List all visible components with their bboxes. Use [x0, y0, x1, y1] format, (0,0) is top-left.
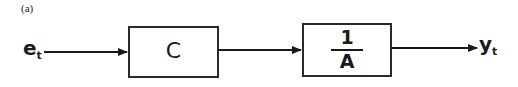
output-subscript: t	[492, 45, 497, 58]
controller-label: C	[130, 38, 217, 63]
fraction-denominator: A	[304, 50, 390, 72]
input-symbol: e	[23, 36, 37, 60]
controller-block: C	[128, 26, 219, 78]
block-diagram: (a) et C 1 A yt	[0, 0, 518, 87]
fraction-numerator: 1	[304, 26, 390, 48]
signal-arrows	[0, 0, 518, 87]
output-signal-label: yt	[479, 32, 497, 56]
input-subscript: t	[37, 49, 42, 62]
inverse-a-block: 1 A	[302, 23, 392, 77]
input-signal-label: et	[23, 36, 42, 60]
output-symbol: y	[479, 32, 492, 56]
